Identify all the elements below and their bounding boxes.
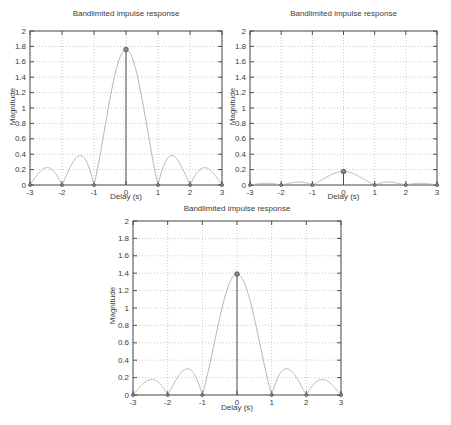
sample-marker (166, 394, 169, 397)
y-axis-label: Magnitude (8, 57, 17, 157)
sample-marker (132, 394, 135, 397)
sample-marker (340, 394, 343, 397)
y-tick-label: 1 (242, 104, 247, 113)
y-tick-label: 1.6 (15, 57, 27, 66)
x-axis-label: Delay (s) (133, 403, 341, 413)
y-tick-label: 0 (22, 181, 27, 190)
sample-marker (93, 184, 96, 187)
peak-marker (124, 47, 129, 52)
sample-marker (249, 184, 252, 187)
y-tick-label: 1.2 (118, 286, 130, 295)
y-tick-label: 0 (242, 181, 247, 190)
y-tick-label: 1.8 (235, 42, 247, 51)
y-tick-label: 0.8 (118, 321, 130, 330)
y-tick-label: 0.8 (15, 119, 27, 128)
y-tick-label: 0 (125, 391, 130, 400)
chart-1: -3-2-1012300.20.40.60.811.21.41.61.82 (235, 27, 440, 198)
chart-title: Bandlimited impulse response (250, 9, 437, 19)
y-tick-label: 1.2 (235, 88, 247, 97)
sample-marker (373, 184, 376, 187)
y-tick-label: 0.2 (15, 165, 27, 174)
y-tick-label: 0.6 (15, 134, 27, 143)
y-tick-label: 0.6 (235, 134, 247, 143)
sample-marker (280, 184, 283, 187)
x-axis-label: Delay (s) (30, 192, 222, 202)
y-tick-label: 0.4 (118, 356, 130, 365)
chart-0: -3-2-1012300.20.40.60.811.21.41.61.82 (15, 27, 225, 198)
chart-2: -3-2-1012300.20.40.60.811.21.41.61.82 (118, 217, 344, 408)
sample-marker (404, 184, 407, 187)
sample-marker (61, 184, 64, 187)
y-tick-label: 2 (22, 27, 27, 36)
y-tick-label: 1.8 (15, 42, 27, 51)
y-tick-label: 1 (22, 104, 27, 113)
y-tick-label: 1.4 (118, 269, 130, 278)
y-tick-label: 1.4 (235, 73, 247, 82)
y-tick-label: 1.2 (15, 88, 27, 97)
y-tick-label: 1.8 (118, 234, 130, 243)
y-tick-label: 1.6 (235, 57, 247, 66)
y-tick-label: 0.2 (118, 373, 130, 382)
sample-marker (201, 394, 204, 397)
sample-marker (305, 394, 308, 397)
y-tick-label: 0.4 (235, 150, 247, 159)
y-tick-label: 1.4 (15, 73, 27, 82)
sample-marker (221, 184, 224, 187)
y-tick-label: 2 (242, 27, 247, 36)
peak-marker (235, 272, 240, 277)
y-tick-label: 1.6 (118, 251, 130, 260)
figure-canvas: -3-2-1012300.20.40.60.811.21.41.61.82-3-… (0, 0, 451, 425)
y-axis-label: Magnitude (228, 57, 237, 157)
sample-marker (157, 184, 160, 187)
y-tick-label: 0.4 (15, 150, 27, 159)
peak-marker (341, 169, 346, 174)
y-tick-label: 0.2 (235, 165, 247, 174)
chart-title: Bandlimited impulse response (133, 204, 341, 214)
sample-marker (29, 184, 32, 187)
y-tick-label: 2 (125, 217, 130, 226)
sample-marker (311, 184, 314, 187)
sample-marker (436, 184, 439, 187)
y-axis-label: Magnitude (108, 256, 117, 356)
sample-marker (189, 184, 192, 187)
chart-title: Bandlimited impulse response (30, 9, 222, 19)
x-axis-label: Delay (s) (250, 192, 437, 202)
y-tick-label: 0.8 (235, 119, 247, 128)
y-tick-label: 0.6 (118, 338, 130, 347)
y-tick-label: 1 (125, 304, 130, 313)
sample-marker (270, 394, 273, 397)
